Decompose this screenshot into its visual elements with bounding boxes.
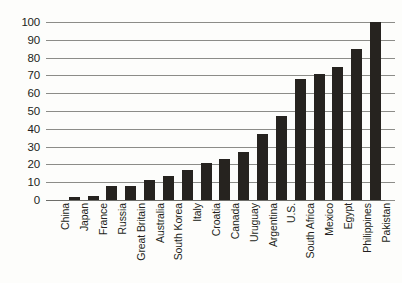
bar	[144, 180, 155, 200]
x-axis-tick-label: Croatia	[210, 203, 222, 236]
bars-group	[46, 22, 385, 200]
y-tick-mark-70	[385, 75, 395, 76]
y-tick-mark-90	[385, 40, 395, 41]
bar	[106, 186, 117, 200]
y-axis-tick-label: 30	[0, 142, 40, 154]
bar	[125, 186, 136, 200]
y-axis-tick-label: 70	[0, 70, 40, 82]
x-axis-tick-label: Japan	[78, 203, 90, 231]
bar	[370, 22, 381, 200]
y-tick-mark-100	[385, 22, 395, 23]
y-axis-tick-label: 20	[0, 159, 40, 171]
y-axis-tick-label: 40	[0, 124, 40, 136]
bar	[69, 197, 80, 200]
bar	[295, 79, 306, 200]
x-axis-tick-label: U.S.	[285, 203, 297, 223]
x-axis-tick-label: China	[59, 203, 71, 230]
bar	[238, 152, 249, 200]
x-axis-tick-label: France	[97, 203, 109, 235]
y-axis-tick-label: 60	[0, 88, 40, 100]
x-axis-tick-label: Egypt	[342, 203, 354, 229]
x-axis-tick-label: Uruguay	[248, 203, 260, 242]
x-axis-tick-label: Argentina	[267, 203, 279, 247]
y-axis-tick-label: 100	[0, 17, 40, 29]
y-axis-tick-label: 0	[0, 195, 40, 207]
y-tick-mark-0	[385, 200, 395, 201]
y-tick-mark-30	[385, 147, 395, 148]
bar	[163, 176, 174, 200]
x-axis-tick-label: Philippines	[361, 203, 373, 253]
y-tick-mark-40	[385, 129, 395, 130]
x-axis-tick-label: Russia	[116, 203, 128, 235]
bar	[314, 74, 325, 200]
y-axis-tick-label: 10	[0, 177, 40, 189]
x-axis-tick-label: Mexico	[323, 203, 335, 236]
y-tick-mark-60	[385, 93, 395, 94]
bar	[182, 170, 193, 200]
x-axis-tick-label: South Korea	[172, 203, 184, 260]
bar	[201, 163, 212, 200]
y-axis-tick-label: 80	[0, 53, 40, 65]
y-tick-mark-10	[385, 182, 395, 183]
bar	[257, 134, 268, 200]
y-tick-mark-20	[385, 164, 395, 165]
x-axis-tick-label: Great Britain	[135, 203, 147, 261]
x-axis-tick-label: Pakistan	[380, 203, 392, 242]
bar	[351, 49, 362, 200]
bar	[332, 67, 343, 201]
bar-chart-figure: 1009080706050403020100 ChinaJapanFranceR…	[0, 0, 402, 283]
x-axis-labels-group: ChinaJapanFranceRussiaGreat BritainAustr…	[46, 203, 385, 283]
x-axis-tick-label: Canada	[229, 203, 241, 239]
y-tick-mark-80	[385, 58, 395, 59]
y-axis-tick-label: 50	[0, 106, 40, 118]
bar	[219, 159, 230, 200]
bar	[88, 196, 99, 200]
x-axis-tick-label: Australia	[154, 203, 166, 243]
bar	[276, 116, 287, 200]
gridline-0	[46, 200, 385, 201]
y-tick-mark-50	[385, 111, 395, 112]
y-axis-tick-label: 90	[0, 35, 40, 47]
x-axis-tick-label: Italy	[191, 203, 203, 222]
x-axis-tick-label: South Africa	[304, 203, 316, 258]
